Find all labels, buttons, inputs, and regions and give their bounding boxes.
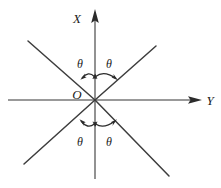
x-axis-label: X (72, 11, 82, 26)
arrowhead-upper-right-outer (112, 74, 119, 80)
origin-label: O (72, 87, 82, 102)
geometry-figure: X Y O θ θ θ θ (0, 0, 221, 188)
diagonal-down-left (24, 100, 95, 164)
diagonal-up-left (28, 41, 95, 100)
theta-upper-left-label: θ (77, 57, 83, 71)
theta-upper-right-label: θ (106, 57, 112, 71)
diagonal-group (24, 41, 169, 176)
theta-lower-left-label: θ (77, 135, 83, 149)
theta-lower-right-label: θ (106, 135, 112, 149)
axis-group (8, 9, 202, 179)
angle-arc-group-lower (81, 121, 115, 126)
y-axis-label: Y (206, 93, 215, 108)
figure-canvas: X Y O θ θ θ θ (0, 0, 221, 188)
diagonal-up-right (95, 46, 156, 100)
angle-arc-group-upper (82, 74, 116, 79)
